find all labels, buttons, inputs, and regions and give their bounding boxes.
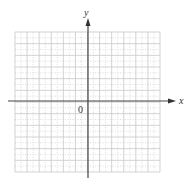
y-axis-arrow-icon (86, 18, 91, 26)
coordinate-plane: x y 0 (0, 0, 193, 185)
x-axis-label: x (178, 95, 184, 106)
y-axis-label: y (83, 7, 89, 18)
x-axis-arrow-icon (168, 99, 176, 104)
origin-label: 0 (78, 104, 83, 115)
y-axis (86, 18, 91, 178)
